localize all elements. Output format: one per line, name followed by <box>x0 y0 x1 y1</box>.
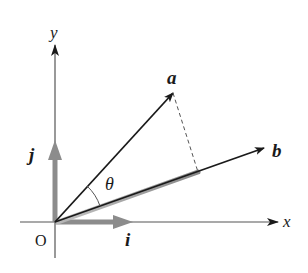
vector-diagram: y x O a b i j θ <box>0 0 308 273</box>
diagram-svg: y x O a b i j θ <box>0 0 308 273</box>
projection-dashed-line <box>173 93 198 172</box>
vector-b <box>55 148 264 222</box>
origin-label: O <box>35 232 47 249</box>
y-axis-label: y <box>48 23 58 42</box>
unit-vector-j-label: j <box>26 144 35 165</box>
vector-b-label: b <box>272 140 282 161</box>
vector-a-label: a <box>167 67 177 88</box>
x-axis-label: x <box>282 212 291 231</box>
angle-theta-label: θ <box>105 174 114 194</box>
unit-vector-j <box>48 140 62 222</box>
angle-arc <box>87 186 100 206</box>
unit-vector-i-label: i <box>125 229 131 250</box>
